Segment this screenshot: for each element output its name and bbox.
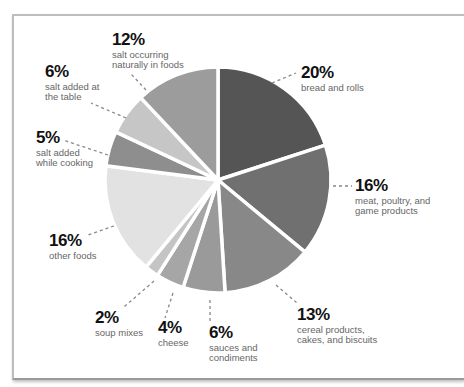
pct-soup: 2% (95, 308, 143, 328)
desc-sauces: sauces and condiments (209, 343, 258, 365)
pct-cereal: 13% (297, 305, 377, 325)
desc-soup: soup mixes (95, 328, 143, 339)
desc-table: salt added at the table (45, 82, 99, 104)
pct-meat: 16% (355, 176, 430, 196)
label-soup: 2% soup mixes (95, 308, 143, 338)
leader-soup (124, 281, 154, 307)
desc-meat: meat, poultry, and game products (355, 196, 430, 218)
pct-cooking: 5% (36, 128, 93, 148)
desc-bread: bread and rolls (301, 83, 364, 94)
pct-bread: 20% (301, 63, 364, 83)
desc-cereal: cereal products, cakes, and biscuits (297, 325, 377, 347)
desc-other: other foods (49, 251, 97, 262)
label-table: 6% salt added at the table (45, 62, 99, 103)
desc-natural: salt occurring naturally in foods (112, 50, 184, 72)
label-meat: 16% meat, poultry, and game products (355, 176, 430, 217)
pct-sauces: 6% (209, 323, 258, 343)
pct-other: 16% (49, 231, 97, 251)
label-cooking: 5% salt added while cooking (36, 128, 93, 169)
label-cereal: 13% cereal products, cakes, and biscuits (297, 305, 377, 346)
label-sauces: 6% sauces and condiments (209, 323, 258, 364)
leader-cereal (276, 285, 297, 303)
label-bread: 20% bread and rolls (301, 63, 364, 93)
desc-cooking: salt added while cooking (36, 148, 93, 170)
leader-table (91, 103, 126, 118)
label-natural: 12% salt occurring naturally in foods (112, 30, 184, 71)
pie-slices (105, 67, 331, 293)
pct-table: 6% (45, 62, 99, 82)
leader-natural (131, 74, 146, 90)
leader-cheese (165, 293, 173, 318)
pct-natural: 12% (112, 30, 184, 50)
label-cheese: 4% cheese (158, 318, 189, 348)
desc-cheese: cheese (158, 338, 189, 349)
pct-cheese: 4% (158, 318, 189, 338)
label-other: 16% other foods (49, 231, 97, 261)
